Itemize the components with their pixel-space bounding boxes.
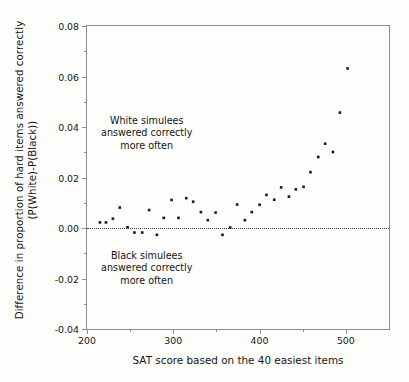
y-axis-tick-label: 0.06 — [58, 71, 79, 82]
data-point — [126, 226, 129, 229]
data-points-layer — [87, 26, 389, 329]
x-axis-tick-minor — [216, 329, 217, 332]
chart-figure: Difference in proportion of hard items a… — [0, 0, 409, 382]
data-point — [295, 188, 298, 191]
x-axis-tick-major — [260, 329, 261, 334]
data-point — [346, 67, 349, 70]
data-point — [162, 217, 165, 220]
y-axis-tick-label: -0.04 — [55, 324, 79, 335]
data-point — [332, 151, 335, 154]
data-point — [99, 221, 102, 224]
x-axis-tick-label: 500 — [337, 335, 355, 346]
y-axis-title-line1: Difference in proportion of hard items a… — [14, 21, 25, 320]
data-point — [236, 203, 239, 206]
data-point — [244, 219, 247, 222]
data-point — [280, 186, 283, 189]
x-axis-tick-major — [87, 329, 88, 334]
data-point — [185, 197, 188, 200]
x-axis-tick-label: 300 — [164, 335, 182, 346]
data-point — [118, 206, 121, 209]
data-point — [339, 111, 342, 114]
x-axis-tick-major — [346, 329, 347, 334]
x-axis-tick-label: 200 — [78, 335, 96, 346]
data-point — [258, 203, 261, 206]
y-axis-tick-label: 0.08 — [58, 21, 79, 32]
data-point — [105, 221, 108, 224]
data-point — [288, 195, 291, 198]
data-point — [317, 156, 320, 159]
y-axis-title: Difference in proportion of hard items a… — [0, 0, 52, 340]
data-point — [207, 219, 210, 222]
data-point — [273, 198, 276, 201]
y-axis-tick-label: -0.02 — [55, 273, 79, 284]
data-point — [229, 226, 232, 229]
data-point — [309, 171, 312, 174]
x-axis-title: SAT score based on the 40 easiest items — [86, 354, 390, 366]
y-axis-tick-label: 0.04 — [58, 122, 79, 133]
data-point — [302, 186, 305, 189]
x-axis-tick-minor — [130, 329, 131, 332]
x-axis-tick-minor — [303, 329, 304, 332]
data-point — [200, 211, 203, 214]
y-axis-tick-label: 0.02 — [58, 172, 79, 183]
data-point — [112, 217, 115, 220]
data-point — [170, 199, 173, 202]
data-point — [324, 142, 327, 145]
y-axis-tick-label: 0.00 — [58, 223, 79, 234]
x-axis-tick-major — [173, 329, 174, 334]
data-point — [133, 231, 136, 234]
data-point — [214, 211, 217, 214]
data-point — [192, 200, 195, 203]
data-point — [156, 234, 159, 237]
x-axis-tick-label: 400 — [251, 335, 269, 346]
plot-area: White simuleesanswered correctlymore oft… — [86, 25, 390, 330]
data-point — [265, 194, 268, 197]
data-point — [141, 231, 144, 234]
y-axis-title-line2: (P(White)-P(Black)) — [26, 21, 39, 320]
data-point — [148, 209, 151, 212]
data-point — [251, 211, 254, 214]
data-point — [221, 234, 224, 237]
data-point — [177, 217, 180, 220]
